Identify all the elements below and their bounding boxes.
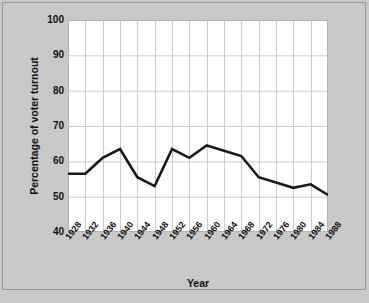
x-axis-title: Year: [68, 277, 328, 289]
x-tick-label: 1980: [289, 220, 308, 241]
x-tick-label: 1964: [220, 220, 239, 241]
x-tick-label: 1972: [255, 220, 274, 241]
x-tick-label: 1940: [116, 220, 135, 241]
x-tick-label: 1956: [185, 220, 204, 241]
x-tick-label: 1988: [324, 220, 343, 241]
x-tick-label: 1968: [237, 220, 256, 241]
x-tick-label: 1936: [99, 220, 118, 241]
x-tick-label: 1928: [64, 220, 83, 241]
x-axis-tick-labels: 1928193219361940194419481952195619601964…: [0, 0, 369, 303]
chart-figure: Percentage of voter turnout 405060708090…: [0, 0, 369, 303]
x-tick-label: 1948: [151, 220, 170, 241]
x-tick-label: 1976: [272, 220, 291, 241]
x-tick-label: 1984: [307, 220, 326, 241]
x-tick-label: 1944: [133, 220, 152, 241]
x-tick-label: 1960: [203, 220, 222, 241]
x-tick-label: 1952: [168, 220, 187, 241]
x-tick-label: 1932: [81, 220, 100, 241]
